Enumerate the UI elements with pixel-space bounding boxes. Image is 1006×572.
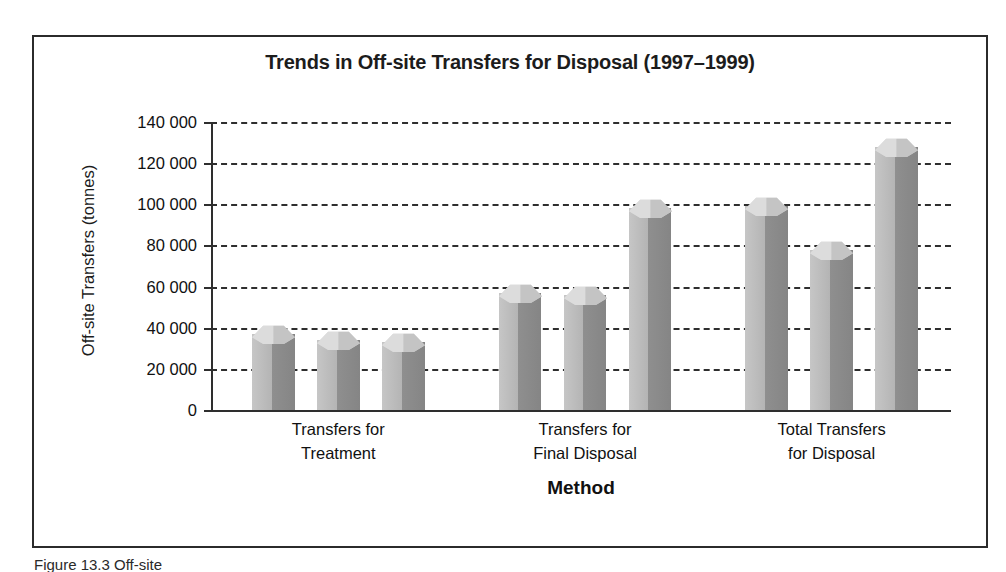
bar-body [252,334,295,410]
bar-face-left [745,206,765,410]
bar-top-face [499,283,542,303]
x-tick-label-line1: Transfers for [539,420,632,438]
chart-title: Trends in Off-site Transfers for Disposa… [34,51,986,74]
y-tick-label: 60 000 [147,277,197,296]
y-tick-label: 100 000 [137,195,197,214]
y-tick-label: 120 000 [137,154,197,173]
bar-face-left [629,208,649,410]
bar [252,324,295,410]
gridline [211,410,951,412]
bar-face-right [583,295,606,410]
bar-body [564,295,607,410]
y-tick-mark [204,163,211,165]
bar-face-left [499,293,519,410]
bar-top-face [745,196,788,216]
bar-face-right [648,208,671,410]
bar-body [875,147,918,410]
bar [382,332,425,410]
x-tick-label: Transfers forFinal Disposal [475,417,695,465]
bar-face-right [830,250,853,410]
x-tick-label-line2: Treatment [228,441,448,465]
bar-body [317,340,360,410]
bar [317,330,360,410]
bars-layer [211,122,951,410]
figure-caption: Figure 13.3 Off-site [34,556,162,572]
bar-face-right [272,334,295,410]
bar [745,196,788,410]
bar-face-left [252,334,272,410]
y-tick-label: 0 [188,401,197,420]
bar-top-face [810,240,853,260]
y-tick-mark [204,245,211,247]
y-tick-mark [204,122,211,124]
bar [564,285,607,410]
bar-body [629,208,672,410]
plot-area: 140 000120 000100 00080 00060 00040 0002… [211,122,951,410]
y-tick-mark [204,328,211,330]
bar-face-left [875,147,895,410]
bar-body [382,342,425,410]
y-tick-mark [204,287,211,289]
bar-top-face [629,198,672,218]
x-axis-title: Method [211,477,951,499]
bar-face-left [564,295,584,410]
bar-top-face [252,324,295,344]
bar-face-left [317,340,337,410]
y-axis-title: Off-site Transfers (tonnes) [79,111,98,411]
bar-body [499,293,542,410]
x-tick-label-line1: Total Transfers [778,420,886,438]
bar-face-right [518,293,541,410]
y-tick-label: 40 000 [147,318,197,337]
figure-frame: Trends in Off-site Transfers for Disposa… [32,35,988,548]
y-tick-mark [204,369,211,371]
bar-top-face [564,285,607,305]
x-tick-label-line2: Final Disposal [475,441,695,465]
y-tick-label: 140 000 [137,113,197,132]
x-tick-label-line1: Transfers for [292,420,385,438]
bar-top-face [317,330,360,350]
bar-top-face [382,332,425,352]
bar-face-right [895,147,918,410]
bar [629,198,672,410]
bar-face-right [765,206,788,410]
bar-face-left [382,342,402,410]
y-tick-mark [204,204,211,206]
bar-body [810,250,853,410]
y-tick-mark [204,410,211,412]
bar-top-face [875,137,918,157]
x-axis-tick-labels: Transfers forTreatmentTransfers forFinal… [211,417,951,479]
x-tick-label: Transfers forTreatment [228,417,448,465]
bar-body [745,206,788,410]
bar-face-left [810,250,830,410]
x-tick-label: Total Transfersfor Disposal [722,417,942,465]
x-tick-label-line2: for Disposal [722,441,942,465]
bar [875,137,918,410]
bar [810,240,853,410]
bar [499,283,542,410]
bar-face-right [337,340,360,410]
y-tick-label: 80 000 [147,236,197,255]
y-tick-label: 20 000 [147,359,197,378]
bar-face-right [402,342,425,410]
